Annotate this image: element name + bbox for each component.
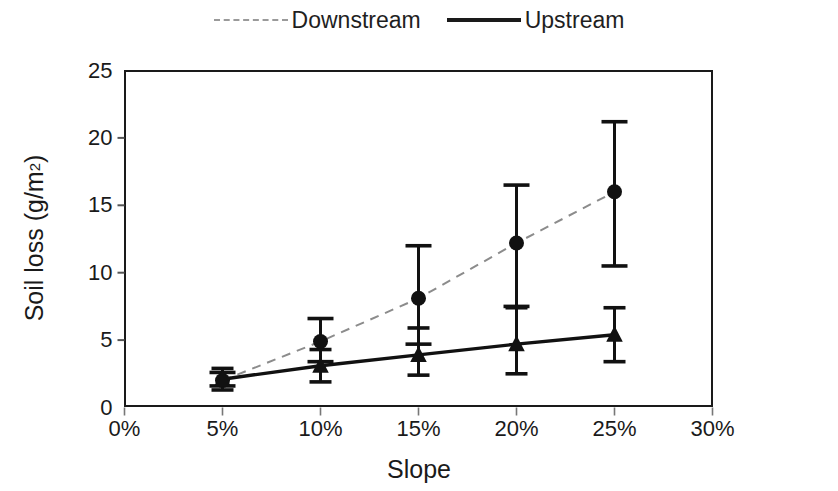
data-marker-circle-downstream [313,334,328,349]
data-marker-circle-downstream [607,184,622,199]
chart-figure: Downstream Upstream Soil loss (g/m2) Slo… [0,0,838,491]
data-marker-circle-downstream [509,236,524,251]
plot-data-overlay [0,0,838,491]
data-marker-circle-downstream [411,291,426,306]
